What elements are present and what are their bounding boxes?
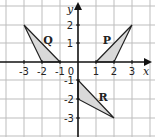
x-tick-label: 2: [111, 66, 117, 77]
y-tick-label: -3: [64, 113, 74, 124]
y-tick-label: 1: [67, 38, 73, 49]
x-tick-label: 3: [129, 66, 135, 77]
x-tick-label: -2: [37, 66, 47, 77]
shape-label-q: Q: [43, 34, 53, 47]
y-tick-label: 2: [67, 20, 73, 31]
x-tick-label: -3: [19, 66, 29, 77]
coordinate-grid: -3 -2 -1 0 1 2 3 x 2 1 -1 -2 -3 y Q P R: [0, 0, 155, 137]
x-axis-label: x: [143, 65, 150, 78]
shape-label-r: R: [98, 91, 108, 104]
y-tick-label: -2: [64, 94, 74, 105]
y-axis-label: y: [66, 3, 74, 16]
shape-label-p: P: [103, 34, 111, 47]
x-tick-label: 1: [93, 66, 99, 77]
y-tick-label: -1: [64, 75, 74, 86]
